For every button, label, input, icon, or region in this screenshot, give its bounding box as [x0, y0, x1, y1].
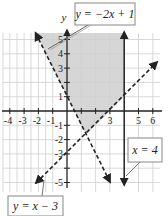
y-axis-label: y — [61, 11, 67, 23]
y-tick-label: 3 — [58, 63, 63, 74]
x-tick-label: -2 — [33, 115, 41, 126]
y-tick-label: -2 — [55, 134, 63, 145]
x-tick-label: 3 — [107, 115, 112, 126]
y-tick-label: 1 — [58, 91, 63, 102]
label-line3: x = 4 — [131, 143, 157, 157]
callout-x-eq-4: x = 4 — [126, 138, 162, 176]
inequality-graph: -4 -3 -2 -1 3 5 6 5 4 3 1 -1 -2 -3 -5 y … — [0, 0, 168, 216]
x-tick-label: -3 — [18, 115, 26, 126]
x-tick-label: -4 — [4, 115, 12, 126]
y-tick-label: 4 — [58, 48, 63, 59]
label-line2: y = x − 3 — [12, 199, 58, 213]
x-tick-label: 6 — [150, 115, 155, 126]
y-tick-label: -5 — [55, 177, 63, 188]
y-tick-label: -1 — [55, 120, 63, 131]
x-tick-label: 5 — [136, 115, 141, 126]
label-line1: y = −2x + 1 — [75, 7, 135, 21]
